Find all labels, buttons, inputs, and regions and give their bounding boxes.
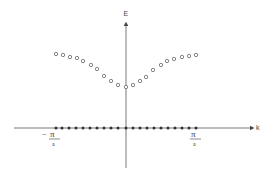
open-circle-point [138, 79, 141, 82]
filled-circle-point [139, 127, 142, 130]
open-circle-point [187, 54, 190, 57]
filled-circle-point [125, 127, 128, 130]
band-structure-diagram: E k − π a π a [0, 0, 272, 178]
right-zone-boundary-label: π a [190, 129, 201, 147]
open-circle-point [61, 53, 64, 56]
open-circle-point [180, 55, 183, 58]
open-circle-point [102, 74, 105, 77]
open-circle-point [75, 56, 78, 59]
open-circle-point [131, 83, 134, 86]
filled-circle-point [55, 127, 58, 130]
open-circle-point [165, 59, 168, 62]
filled-circle-point [68, 127, 71, 130]
filled-circle-point [153, 127, 156, 130]
a-denominator: a [52, 141, 55, 147]
filled-circle-point [181, 127, 184, 130]
open-circle-point [116, 83, 119, 86]
filled-circle-point [110, 127, 113, 130]
open-circle-point [89, 63, 92, 66]
pi-numerator: π [50, 129, 55, 139]
open-circle-point [172, 57, 175, 60]
filled-circle-point [96, 127, 99, 130]
filled-circle-point [160, 127, 163, 130]
a-denominator: a [193, 141, 196, 147]
filled-circle-point [167, 127, 170, 130]
pi-numerator: π [191, 129, 196, 139]
filled-circle-point [82, 127, 85, 130]
filled-circle-point [103, 127, 106, 130]
filled-circle-point [146, 127, 149, 130]
open-circle-point [81, 59, 84, 62]
e-axis-label: E [124, 10, 129, 17]
open-circle-point [54, 52, 57, 55]
open-circle-point [124, 85, 127, 88]
filled-circle-point [132, 127, 135, 130]
open-circle-point [95, 67, 98, 70]
minus-sign: − [42, 130, 47, 139]
open-circle-point [109, 79, 112, 82]
open-circle-point [144, 75, 147, 78]
filled-circle-point [89, 127, 92, 130]
open-circle-point [68, 55, 71, 58]
lower-band-points [55, 127, 198, 130]
open-circle-point [194, 53, 197, 56]
left-zone-boundary-label: − π a [42, 129, 60, 147]
filled-circle-point [61, 127, 64, 130]
filled-circle-point [174, 127, 177, 130]
filled-circle-point [117, 127, 120, 130]
open-circle-point [151, 68, 154, 71]
open-circle-point [159, 63, 162, 66]
k-axis-label: k [256, 124, 260, 131]
filled-circle-point [75, 127, 78, 130]
